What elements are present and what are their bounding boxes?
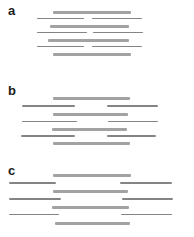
read-segment <box>122 198 173 200</box>
read-segment <box>107 135 156 137</box>
sequence-coverage-figure: abc <box>0 0 194 237</box>
read-segment <box>37 46 84 48</box>
contig-bar <box>53 174 131 177</box>
read-segment <box>120 182 172 184</box>
read-segment <box>37 32 87 34</box>
read-segment <box>21 135 75 137</box>
read-segment <box>93 32 143 34</box>
read-segment <box>92 46 142 48</box>
contig-bar <box>50 25 129 28</box>
read-segment <box>121 214 172 216</box>
read-segment <box>9 182 56 184</box>
contig-bar <box>53 190 128 193</box>
contig-bar <box>53 53 131 56</box>
contig-bar <box>52 128 127 131</box>
read-segment <box>92 18 142 20</box>
read-segment <box>37 18 84 20</box>
read-segment <box>22 121 77 123</box>
contig-bar <box>55 222 130 225</box>
read-segment <box>9 198 61 200</box>
contig-bar <box>53 97 130 100</box>
contig-bar <box>52 206 129 209</box>
panel-label-a: a <box>8 4 15 17</box>
read-segment <box>107 105 158 107</box>
contig-bar <box>53 142 130 145</box>
contig-bar <box>48 39 129 42</box>
contig-bar <box>53 11 131 14</box>
panel-label-b: b <box>8 84 16 97</box>
read-segment <box>22 105 75 107</box>
panel-label-c: c <box>8 164 15 177</box>
contig-bar <box>53 113 128 116</box>
read-segment <box>9 214 59 216</box>
read-segment <box>108 121 158 123</box>
